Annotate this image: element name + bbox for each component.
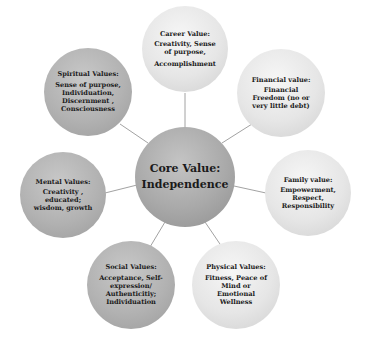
connector-social	[150, 222, 165, 247]
connector-mental	[105, 185, 137, 193]
mental-values-node: Mental Values: Creativity , educated; wi…	[20, 152, 106, 238]
spiritual-values-node: Spiritual Values: Sense of purpose, Indi…	[44, 48, 132, 136]
financial-value-node: Financial value: Financial Freedom (no o…	[237, 49, 325, 137]
core-value-title: Core Value:	[150, 161, 221, 178]
social-values-title: Social Values:	[105, 263, 156, 271]
financial-value-title: Financial value:	[252, 76, 311, 84]
social-values-body: Acceptance, Self-expression/ Authenticit…	[97, 274, 165, 307]
core-value-node: Core Value: Independence	[135, 127, 235, 227]
family-value-node: Family value: Empowerment, Respect, Resp…	[265, 150, 351, 236]
spiritual-values-body: Sense of purpose, Individuation, Discern…	[54, 81, 122, 114]
mental-values-title: Mental Values:	[36, 178, 91, 186]
physical-values-node: Physical Values: Fitness, Peace of Mind …	[192, 241, 280, 329]
career-value-title: Career Value:	[160, 30, 210, 38]
financial-value-body: Financial Freedom (no or very little deb…	[247, 86, 315, 111]
mental-values-body: Creativity , educated; wisdom, growth	[30, 188, 96, 213]
career-value-node: Career Value: Creativity, Sense of purpo…	[142, 6, 228, 92]
core-value-body: Independence	[142, 177, 229, 194]
family-value-title: Family value:	[284, 176, 333, 184]
physical-values-body: Fitness, Peace of Mind or Emotional Well…	[202, 274, 270, 307]
connector-financial	[222, 124, 252, 143]
social-values-node: Social Values: Acceptance, Self-expressi…	[87, 241, 175, 329]
connector-family	[234, 186, 266, 193]
spiritual-values-title: Spiritual Values:	[57, 70, 118, 78]
connector-spiritual	[120, 124, 148, 143]
physical-values-title: Physical Values:	[206, 263, 265, 271]
career-value-extra: Accomplishment	[154, 60, 216, 68]
family-value-body: Empowerment, Respect, Responsibility	[275, 186, 341, 211]
career-value-body: Creativity, Sense of purpose,	[152, 40, 218, 56]
